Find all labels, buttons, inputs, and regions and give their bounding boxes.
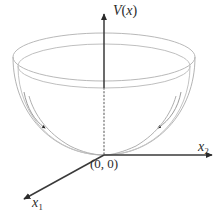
right-trajectory-path <box>158 92 181 128</box>
x2-axis-subscript: 2 <box>204 146 208 156</box>
trajectory-group <box>24 92 181 155</box>
x1-axis-subscript: 1 <box>38 202 42 212</box>
left-trajectory-tail <box>29 96 104 155</box>
x1-axis-label: x1 <box>32 196 43 210</box>
origin-label: (0, 0) <box>90 157 118 170</box>
potential-well-figure: V(x) x2 x1 (0, 0) <box>0 0 223 221</box>
v-axis-arg: (x) <box>122 3 138 18</box>
right-trajectory-tail <box>104 96 176 155</box>
x2-axis-label: x2 <box>198 140 209 154</box>
figure-canvas <box>0 0 223 221</box>
v-axis-label: V(x) <box>113 4 137 18</box>
v-axis-symbol: V <box>113 3 122 18</box>
